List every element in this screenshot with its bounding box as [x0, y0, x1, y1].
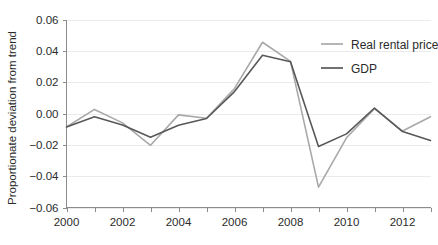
y-axis-title: Proportionate deviation from trend	[6, 31, 18, 205]
legend-label-real-rental-price: Real rental price	[351, 38, 438, 52]
y-tick-label: 0.06	[36, 14, 58, 26]
legend: Real rental priceGDP	[321, 38, 438, 76]
x-tick-label: 2006	[222, 216, 248, 228]
y-tick-label: −0.06	[29, 202, 58, 214]
x-tick-label: 2004	[166, 216, 192, 228]
x-tick-label: 2012	[390, 216, 416, 228]
y-tick-label: 0.00	[36, 108, 58, 120]
x-tick-label: 2002	[110, 216, 136, 228]
x-tick-label: 2000	[54, 216, 80, 228]
y-tick-labels: 0.060.040.020.00−0.02−0.04−0.06	[29, 14, 59, 214]
x-tick-label: 2010	[334, 216, 360, 228]
y-axis	[63, 20, 67, 209]
x-tick-label: 2008	[278, 216, 304, 228]
chart-figure: 0.060.040.020.00−0.02−0.04−0.06 20002002…	[0, 0, 438, 245]
line-chart-canvas: 0.060.040.020.00−0.02−0.04−0.06 20002002…	[0, 0, 438, 245]
y-tick-label: 0.02	[36, 76, 58, 88]
y-tick-label: −0.02	[29, 139, 58, 151]
legend-label-gdp: GDP	[351, 62, 377, 76]
y-tick-label: −0.04	[29, 170, 59, 182]
x-tick-labels: 2000200220042006200820102012	[54, 216, 416, 228]
y-tick-label: 0.04	[36, 45, 59, 57]
